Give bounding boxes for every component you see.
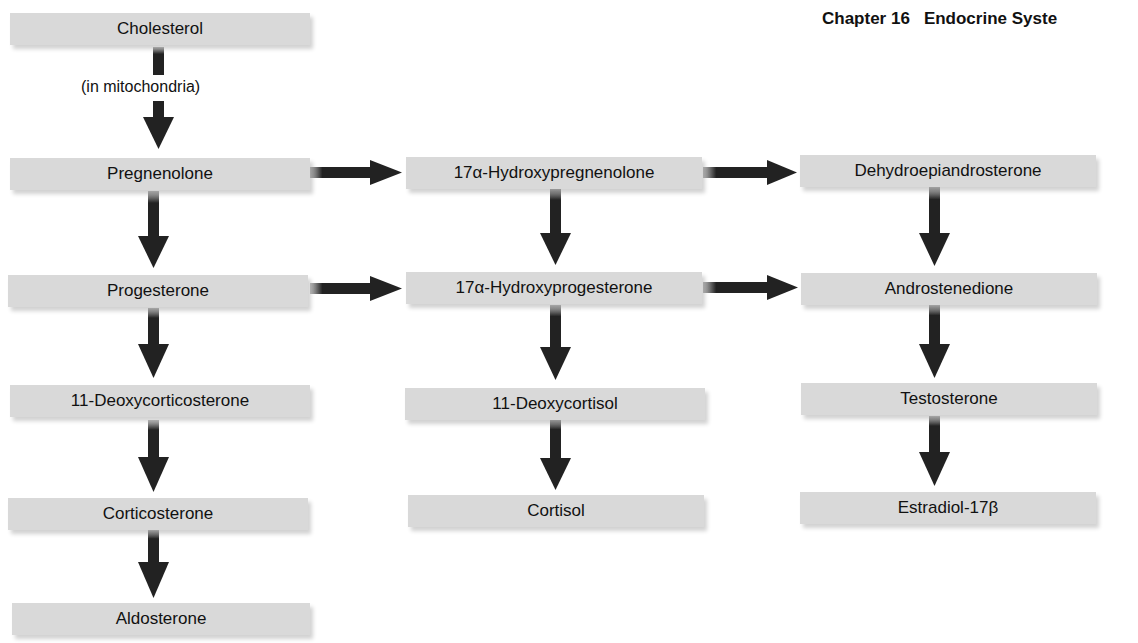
- arrow-down-icon: [138, 308, 169, 378]
- arrow-down-icon: [919, 187, 950, 266]
- node-pregnenolone: Pregnenolone: [10, 158, 310, 190]
- node-17a-hydroxyprogesterone: 17α-Hydroxyprogesterone: [406, 272, 702, 304]
- mitochondria-note: (in mitochondria): [81, 78, 200, 96]
- node-deoxycorticosterone: 11-Deoxycorticosterone: [10, 385, 310, 417]
- arrow-right-icon: [703, 275, 798, 300]
- arrow-down-icon: [919, 305, 950, 378]
- node-11-deoxycortisol: 11-Deoxycortisol: [405, 388, 705, 420]
- node-progesterone: Progesterone: [8, 275, 308, 307]
- node-dehydroepiandrosterone: Dehydroepiandrosterone: [800, 155, 1096, 187]
- arrow-down-icon: [138, 420, 169, 492]
- node-aldosterone: Aldosterone: [12, 603, 310, 635]
- arrow-right-icon: [310, 160, 402, 185]
- arrow-down-icon: [919, 416, 950, 486]
- pathway-arrows: [0, 0, 1138, 643]
- arrow-down-icon: [138, 191, 169, 268]
- node-androstenedione: Androstenedione: [801, 273, 1097, 305]
- arrow-down-icon: [138, 530, 169, 598]
- node-cortisol: Cortisol: [408, 495, 704, 527]
- arrow-down-icon: [540, 419, 571, 490]
- node-cholesterol: Cholesterol: [10, 13, 310, 45]
- node-17a-hydroxypregnenolone: 17α-Hydroxypregnenolone: [406, 157, 702, 189]
- arrow-down-icon: [540, 305, 571, 380]
- arrow-right-icon: [703, 160, 797, 185]
- node-estradiol-17b: Estradiol-17β: [800, 492, 1096, 524]
- node-testosterone: Testosterone: [801, 383, 1097, 415]
- node-corticosterone: Corticosterone: [8, 498, 308, 530]
- arrow-down-icon: [540, 188, 571, 265]
- arrow-right-icon: [310, 276, 402, 301]
- arrow-down-icon: [143, 47, 174, 149]
